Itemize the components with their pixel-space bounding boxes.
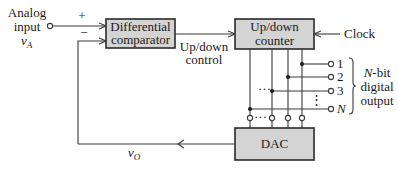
bit-label-2: 2 bbox=[337, 69, 344, 84]
minus-sign: − bbox=[80, 25, 87, 40]
output-group-line2: digital bbox=[360, 79, 394, 94]
feedback-symbol: vO bbox=[128, 145, 141, 162]
bit-label-n: N bbox=[336, 101, 347, 116]
input-label-line2: input bbox=[14, 19, 41, 34]
input-terminal bbox=[47, 23, 52, 28]
output-terminals bbox=[328, 61, 333, 111]
bit-label-3: 3 bbox=[337, 83, 344, 98]
bus-ellipsis-h: ··· bbox=[258, 81, 271, 96]
dac-terminal-ellipsis: ··· bbox=[254, 109, 267, 124]
counter-line2: counter bbox=[255, 33, 295, 48]
analog-input-label: Analog input vA bbox=[8, 5, 47, 50]
counter-line1: Up/down bbox=[250, 19, 299, 34]
output-brace bbox=[349, 58, 356, 114]
bus-ellipsis-v: ⋮ bbox=[310, 92, 323, 107]
dac-block: DAC bbox=[235, 128, 314, 160]
counter-block: Up/down counter bbox=[235, 19, 314, 49]
adc-block-diagram: Analog input vA + − Differential compara… bbox=[0, 0, 398, 171]
feedback-to-comparator-wire bbox=[78, 41, 106, 144]
output-group-line1: N-bit bbox=[363, 65, 391, 80]
dac-label: DAC bbox=[261, 136, 288, 151]
clock-label: Clock bbox=[344, 26, 376, 41]
comparator-line2: comparator bbox=[111, 32, 171, 47]
input-label-line1: Analog bbox=[8, 5, 47, 20]
input-symbol: vA bbox=[21, 33, 33, 50]
plus-sign: + bbox=[78, 8, 85, 23]
comparator-block: Differential comparator bbox=[106, 19, 175, 48]
updown-label-line2: control bbox=[186, 52, 223, 67]
output-group-line3: output bbox=[360, 93, 394, 108]
